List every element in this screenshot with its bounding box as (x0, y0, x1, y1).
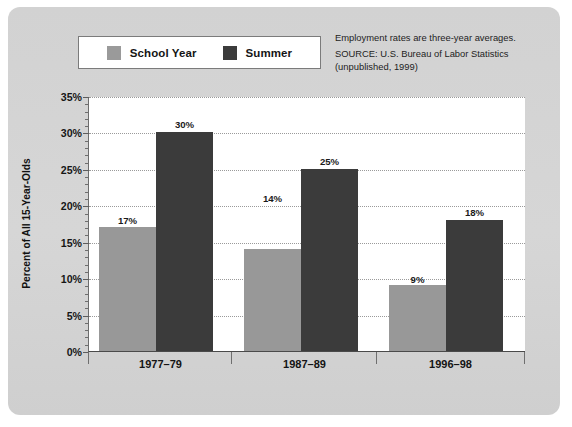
y-tick-20 (83, 206, 89, 207)
y-tick-minor-26 (85, 163, 89, 164)
bar-1987-89-summer (301, 169, 358, 351)
gridline-35 (89, 97, 525, 98)
y-tick-minor-33 (85, 112, 89, 113)
y-tick-minor-2 (85, 337, 89, 338)
plot-area: 17% 30% 14% 25% 9% 18% (88, 97, 525, 352)
y-tick-minor-1 (85, 345, 89, 346)
legend-label-school-year: School Year (130, 47, 197, 59)
chart-note-block: Employment rates are three-year averages… (335, 31, 550, 74)
y-tick-minor-21 (85, 199, 89, 200)
y-tick-label-35: 35% (46, 91, 82, 103)
y-tick-25 (83, 170, 89, 171)
y-tick-minor-29 (85, 141, 89, 142)
y-tick-minor-11 (85, 272, 89, 273)
y-tick-label-5: 5% (46, 310, 82, 322)
x-tick-start (88, 352, 89, 364)
y-tick-minor-4 (85, 323, 89, 324)
chart-figure: School Year Summer Employment rates are … (0, 0, 572, 427)
y-tick-minor-22 (85, 192, 89, 193)
y-tick-minor-28 (85, 148, 89, 149)
x-category-label-1977-79: 1977–79 (98, 358, 223, 370)
legend-swatch-summer-icon (223, 46, 237, 60)
y-tick-minor-31 (85, 126, 89, 127)
y-tick-minor-6 (85, 308, 89, 309)
y-tick-minor-8 (85, 294, 89, 295)
y-tick-label-15: 15% (46, 237, 82, 249)
bar-value-1987-89-school-year: 14% (244, 193, 301, 204)
y-tick-minor-16 (85, 235, 89, 236)
y-tick-15 (83, 243, 89, 244)
bar-value-1977-79-summer: 30% (156, 119, 213, 130)
bar-1987-89-school-year (244, 249, 301, 351)
y-tick-minor-34 (85, 104, 89, 105)
y-tick-label-25: 25% (46, 164, 82, 176)
x-category-label-1996-98: 1996–98 (388, 358, 513, 370)
y-tick-minor-12 (85, 265, 89, 266)
x-tick-sep-1 (231, 352, 232, 364)
y-tick-minor-14 (85, 250, 89, 251)
y-tick-minor-27 (85, 155, 89, 156)
gridline-30 (89, 133, 525, 134)
bar-value-1987-89-summer: 25% (301, 156, 358, 167)
y-tick-minor-3 (85, 330, 89, 331)
bar-1977-79-summer (156, 132, 213, 351)
legend-swatch-school-year-icon (107, 46, 121, 60)
bar-1996-98-summer (446, 220, 503, 351)
y-axis-title: Percent of All 15-Year-Olds (21, 124, 32, 324)
y-tick-minor-17 (85, 228, 89, 229)
y-tick-label-30: 30% (46, 127, 82, 139)
note-line-source-detail: (unpublished, 1999) (335, 60, 550, 73)
note-line-source: SOURCE: U.S. Bureau of Labor Statistics (335, 47, 550, 60)
y-tick-label-20: 20% (46, 200, 82, 212)
bar-value-1996-98-summer: 18% (446, 207, 503, 218)
legend-item-school-year: School Year (107, 46, 197, 60)
x-tick-sep-2 (376, 352, 377, 364)
y-tick-minor-32 (85, 119, 89, 120)
note-line-averages: Employment rates are three-year averages… (335, 31, 550, 44)
y-tick-label-0: 0% (46, 346, 82, 358)
bar-value-1996-98-school-year: 9% (389, 274, 446, 285)
x-category-label-1987-89: 1987–89 (242, 358, 367, 370)
y-tick-30 (83, 133, 89, 134)
legend-item-summer: Summer (223, 46, 293, 60)
y-tick-minor-23 (85, 184, 89, 185)
bar-value-1977-79-school-year: 17% (99, 215, 156, 226)
bar-1977-79-school-year (99, 227, 156, 351)
y-tick-minor-7 (85, 301, 89, 302)
x-tick-end (524, 352, 525, 364)
chart-legend: School Year Summer (78, 36, 321, 69)
bar-1996-98-school-year (389, 285, 446, 351)
y-tick-10 (83, 279, 89, 280)
y-tick-minor-18 (85, 221, 89, 222)
y-tick-minor-24 (85, 177, 89, 178)
y-tick-minor-19 (85, 214, 89, 215)
y-tick-35 (83, 97, 89, 98)
y-tick-minor-13 (85, 257, 89, 258)
y-tick-label-10: 10% (46, 273, 82, 285)
legend-label-summer: Summer (246, 47, 293, 59)
y-tick-minor-9 (85, 286, 89, 287)
y-tick-5 (83, 316, 89, 317)
